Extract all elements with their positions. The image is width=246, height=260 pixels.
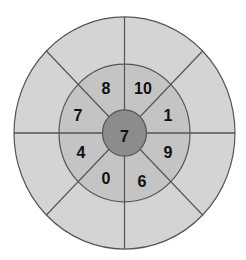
target-diagram-svg: 7 10 1 9 6 0 4 7 8 xyxy=(0,0,246,260)
segment-value-sse: 6 xyxy=(138,173,147,190)
segment-value-nnw: 8 xyxy=(102,80,111,97)
center-value: 7 xyxy=(120,128,129,145)
segment-value-wsw: 4 xyxy=(77,144,86,161)
segment-value-wnw: 7 xyxy=(74,107,83,124)
segment-value-nne: 10 xyxy=(134,80,152,97)
target-diagram: 7 10 1 9 6 0 4 7 8 xyxy=(0,0,246,260)
segment-value-ssw: 0 xyxy=(102,170,111,187)
segment-value-ene: 1 xyxy=(164,107,173,124)
segment-value-ese: 9 xyxy=(164,144,173,161)
